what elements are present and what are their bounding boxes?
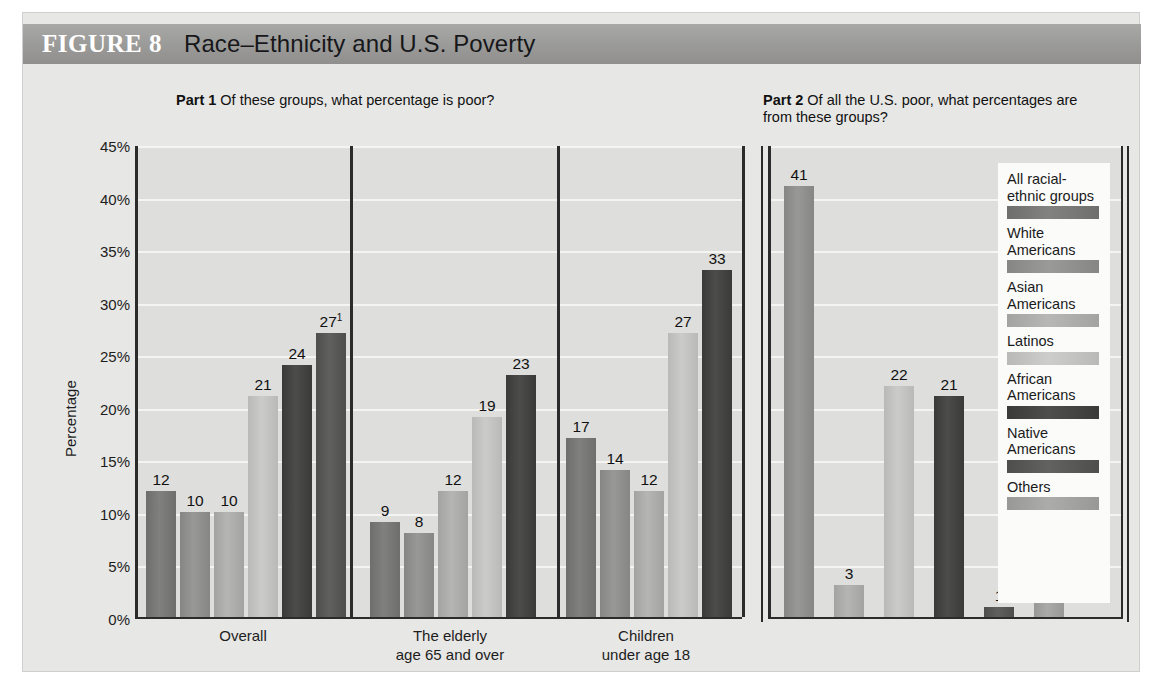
bar: 21 <box>934 396 964 617</box>
part1-plot-area: 1210102124271981219231714122733 <box>135 146 742 619</box>
bar-value-label: 24 <box>288 345 305 363</box>
legend-item-label: African Americans <box>1007 371 1101 404</box>
legend: All racial-ethnic groupsWhite AmericansA… <box>998 163 1110 603</box>
legend-item: White Americans <box>1007 225 1101 273</box>
figure-container: FIGURE 8 Race–Ethnicity and U.S. Poverty… <box>22 12 1140 672</box>
y-axis-tick: 30% <box>100 295 130 312</box>
legend-color-swatch <box>1007 406 1099 419</box>
legend-item: Native Americans <box>1007 425 1101 473</box>
y-axis-tick: 40% <box>100 190 130 207</box>
plot-right-border <box>742 146 745 617</box>
legend-color-swatch <box>1007 314 1099 327</box>
gridline <box>138 251 742 253</box>
bar: 8 <box>404 533 434 617</box>
page-title: Race–Ethnicity and U.S. Poverty <box>184 30 535 58</box>
bar: 12 <box>634 491 664 617</box>
part2-header-bold: Part 2 <box>763 92 803 108</box>
bar-value-label: 8 <box>415 513 424 531</box>
bar: 17 <box>566 438 596 617</box>
x-axis-group-line: Overall <box>143 626 343 645</box>
bar: 41 <box>784 186 814 617</box>
legend-item-label: White Americans <box>1007 225 1101 258</box>
bar-value-label: 27 <box>674 313 691 331</box>
bar: 9 <box>370 522 400 617</box>
bar: 21 <box>248 396 278 617</box>
bar-value-label: 17 <box>572 418 589 436</box>
y-axis-tick: 5% <box>108 558 130 575</box>
bar: 24 <box>282 365 312 617</box>
gridline <box>771 146 1121 148</box>
y-axis-tick: 0% <box>108 611 130 628</box>
legend-color-swatch <box>1007 206 1099 219</box>
x-axis-group-label: The elderlyage 65 and over <box>350 626 550 664</box>
bar-value-label: 33 <box>708 250 725 268</box>
y-axis-tick: 15% <box>100 453 130 470</box>
bar-value-label: 14 <box>606 450 623 468</box>
bar-value-label: 271 <box>320 312 343 331</box>
bar: 22 <box>884 386 914 617</box>
y-axis-tick: 25% <box>100 348 130 365</box>
bar-value-label: 12 <box>444 471 461 489</box>
bar-value-label: 9 <box>381 502 390 520</box>
bar: 10 <box>180 512 210 617</box>
part1-header: Part 1 Of these groups, what percentage … <box>176 92 506 109</box>
legend-item: All racial-ethnic groups <box>1007 171 1101 219</box>
bar-value-label: 21 <box>940 376 957 394</box>
bar-value-label: 10 <box>220 492 237 510</box>
bar-value-label: 23 <box>512 355 529 373</box>
part1-header-bold: Part 1 <box>176 92 216 108</box>
y-axis-tick: 45% <box>100 138 130 155</box>
figure-number: FIGURE 8 <box>42 30 162 58</box>
legend-item-label: Native Americans <box>1007 425 1101 458</box>
bar-value-label: 12 <box>640 471 657 489</box>
legend-color-swatch <box>1007 352 1099 365</box>
gridline <box>138 146 742 148</box>
gridline <box>138 356 742 358</box>
bar: 271 <box>316 333 346 617</box>
x-axis-group-label: Overall <box>143 626 343 645</box>
bar-value-label: 3 <box>845 565 854 583</box>
legend-item: Others <box>1007 479 1101 511</box>
figure-title-band: FIGURE 8 Race–Ethnicity and U.S. Poverty <box>23 24 1141 64</box>
group-separator <box>350 146 353 617</box>
legend-item: African Americans <box>1007 371 1101 419</box>
legend-color-swatch <box>1007 497 1099 510</box>
gridline <box>138 461 742 463</box>
part2-header: Part 2 Of all the U.S. poor, what percen… <box>763 92 1093 126</box>
legend-color-swatch <box>1007 460 1099 473</box>
part1-header-text: Of these groups, what percentage is poor… <box>220 92 494 108</box>
x-axis-group-line: under age 18 <box>555 645 737 664</box>
bar-value-label: 12 <box>152 471 169 489</box>
y-axis-tick: 20% <box>100 400 130 417</box>
legend-item: Latinos <box>1007 333 1101 365</box>
legend-item-label: Others <box>1007 479 1101 496</box>
bar-value-label: 19 <box>478 397 495 415</box>
part2-header-text: Of all the U.S. poor, what percentages a… <box>763 92 1077 125</box>
legend-item: Asian Americans <box>1007 279 1101 327</box>
bar-value-label: 10 <box>186 492 203 510</box>
bar: 19 <box>472 417 502 617</box>
y-axis: Percentage 0%5%10%15%20%25%30%35%40%45% <box>68 137 134 627</box>
bar: 14 <box>600 470 630 617</box>
group-separator <box>557 146 560 617</box>
legend-item-label: All racial-ethnic groups <box>1007 171 1101 204</box>
gridline <box>138 199 742 201</box>
bar: 33 <box>702 270 732 617</box>
bar: 12 <box>146 491 176 617</box>
y-axis-tick: 10% <box>100 505 130 522</box>
bar-value-label: 21 <box>254 376 271 394</box>
legend-color-swatch <box>1007 260 1099 273</box>
bar: 23 <box>506 375 536 617</box>
y-axis-tick: 35% <box>100 243 130 260</box>
gridline <box>138 409 742 411</box>
x-axis-group-label: Childrenunder age 18 <box>555 626 737 664</box>
gridline <box>138 304 742 306</box>
bar-value-label: 22 <box>890 366 907 384</box>
bar: 12 <box>438 491 468 617</box>
bar-value-label: 41 <box>790 166 807 184</box>
y-axis-title: Percentage <box>62 380 79 457</box>
bar: 1 <box>984 607 1014 618</box>
legend-item-label: Latinos <box>1007 333 1101 350</box>
legend-item-label: Asian Americans <box>1007 279 1101 312</box>
x-axis-group-line: Children <box>555 626 737 645</box>
